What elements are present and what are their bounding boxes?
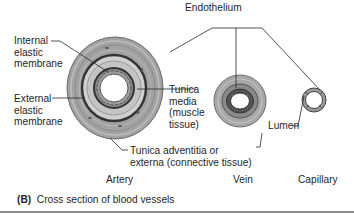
label-internal-elastic-membrane: Internal elastic membrane bbox=[14, 35, 63, 70]
label-vein: Vein bbox=[233, 174, 253, 186]
label-external-elastic-membrane: External elastic membrane bbox=[14, 93, 63, 128]
panel-letter: (B) bbox=[17, 194, 31, 205]
artery-cross-section bbox=[67, 37, 163, 139]
label-artery: Artery bbox=[106, 174, 133, 186]
label-tunica-media: Tunica media (muscle tissue) bbox=[169, 84, 205, 130]
figure-caption: (B) Cross section of blood vessels bbox=[17, 194, 174, 205]
capillary-cross-section bbox=[302, 88, 326, 112]
label-endothelium: Endothelium bbox=[185, 2, 242, 14]
blood-vessel-cross-section-diagram: Endothelium Internal elastic membrane Ex… bbox=[0, 0, 354, 216]
label-tunica-adventitia: Tunica adventitia or externa (connective… bbox=[130, 145, 252, 168]
bottom-divider bbox=[0, 211, 354, 213]
label-capillary: Capillary bbox=[298, 174, 338, 186]
vein-cross-section bbox=[214, 75, 266, 127]
caption-text: Cross section of blood vessels bbox=[37, 194, 175, 205]
label-lumen: Lumen bbox=[268, 120, 299, 132]
